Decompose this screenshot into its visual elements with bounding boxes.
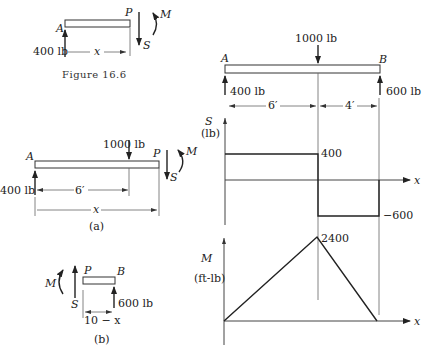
shear-label: S <box>71 298 79 311</box>
shear-value-400: 400 <box>321 147 342 160</box>
moment-arrow-icon <box>153 13 157 35</box>
free-body-diagram-a: A P 1000 lb 400 lb 6′ x S M (a) <box>0 138 198 233</box>
shear-value-neg600: −600 <box>383 209 413 222</box>
dimension-x-label: x <box>93 203 100 216</box>
x-axis-label: x <box>414 315 421 328</box>
label-a: A <box>220 52 229 65</box>
moment-diagram: M (ft-lb) x 2400 <box>194 232 421 345</box>
moment-peak-value: 2400 <box>321 232 349 245</box>
beam <box>225 65 380 73</box>
caption-a: (a) <box>89 220 104 233</box>
beam-segment <box>35 161 159 168</box>
label-p: P <box>83 264 92 277</box>
point-load-label: 1000 lb <box>103 138 145 151</box>
moment-label: M <box>185 145 198 158</box>
figure-16-6: A P 400 lb x S M Figure 16.6 <box>33 6 172 80</box>
free-body-diagram-b: P B S M 600 lb 10 − x (b) <box>44 264 153 346</box>
s-axis-unit: (lb) <box>201 127 220 140</box>
label-a: A <box>25 150 34 163</box>
reaction-label: 400 lb <box>0 184 35 197</box>
dimension-6ft-label: 6′ <box>75 184 85 197</box>
reaction-label: 600 lb <box>118 297 153 310</box>
right-reaction-label: 600 lb <box>386 85 421 98</box>
dimension-label: 10 − x <box>84 314 121 327</box>
shear-label: S <box>143 39 151 52</box>
reaction-label: 400 lb <box>33 45 68 58</box>
beam-segment <box>83 277 115 284</box>
label-b: B <box>378 53 387 66</box>
m-axis-label: M <box>200 252 213 265</box>
label-p: P <box>124 6 133 19</box>
shear-diagram: S (lb) x 400 −600 <box>201 115 421 225</box>
label-p: P <box>152 147 161 160</box>
x-axis-label: x <box>414 174 421 187</box>
moment-arrow-icon <box>59 270 63 294</box>
label-b: B <box>116 265 125 278</box>
label-a: A <box>55 22 64 35</box>
shear-label: S <box>170 171 178 184</box>
dimension-6ft-label: 6′ <box>268 99 278 112</box>
moment-label: M <box>159 8 172 21</box>
beam-segment <box>65 20 130 27</box>
moment-arrow-icon <box>178 150 183 172</box>
caption-b: (b) <box>94 333 110 346</box>
left-reaction-label: 400 lb <box>230 85 265 98</box>
shear-curve <box>225 154 379 216</box>
main-beam-diagram: 1000 lb A B 400 lb 600 lb 6′ 4′ <box>220 32 421 112</box>
dimension-x-label: x <box>94 45 101 58</box>
point-load-label: 1000 lb <box>295 32 337 45</box>
moment-label: M <box>44 277 57 290</box>
figure-caption: Figure 16.6 <box>62 69 127 80</box>
dimension-4ft-label: 4′ <box>345 99 355 112</box>
m-axis-unit: (ft-lb) <box>194 272 225 285</box>
moment-curve <box>224 237 377 321</box>
